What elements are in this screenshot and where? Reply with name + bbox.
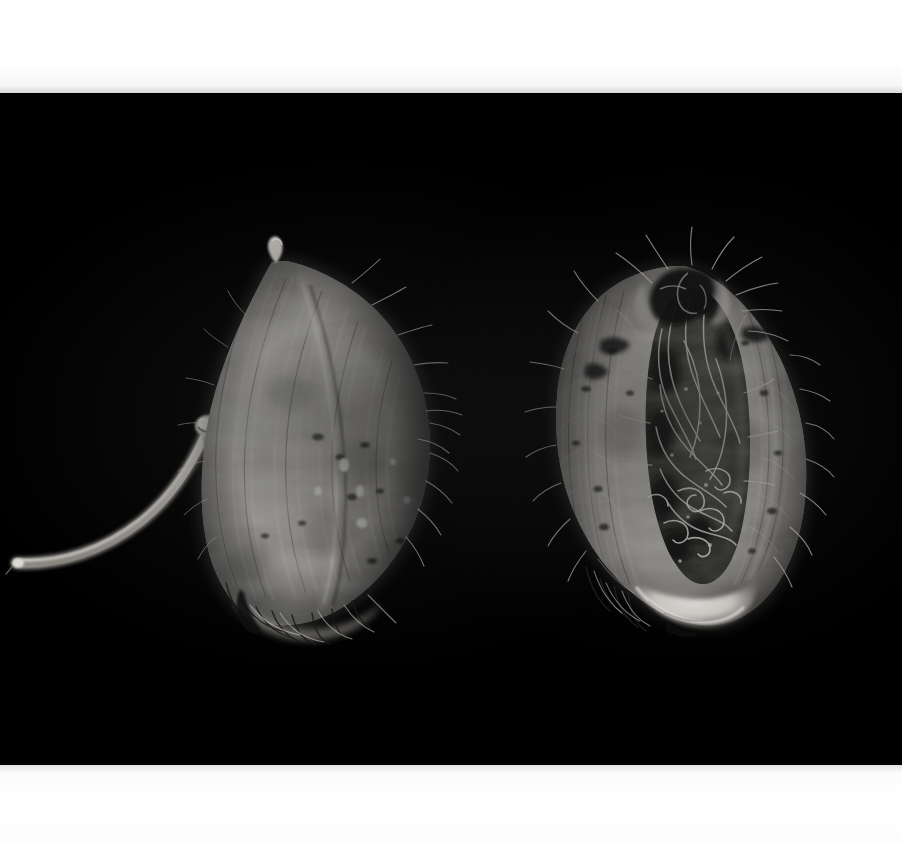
photo-border-bottom	[0, 765, 902, 844]
photo-border-top	[0, 0, 902, 93]
specimen-illustration	[0, 93, 902, 765]
photo-plate: Intact seed pod with stem Split open see…	[0, 93, 902, 765]
photograph-stage: Intact seed pod with stem Split open see…	[0, 0, 902, 844]
